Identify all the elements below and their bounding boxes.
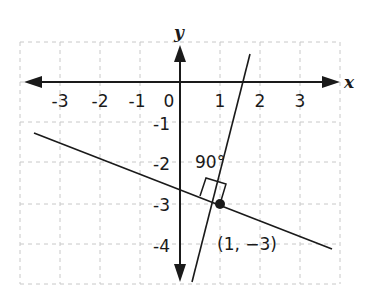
x-tick-label: -1 [129,91,146,111]
y-axis-label: y [173,22,185,42]
y-tick-label: -4 [153,236,170,256]
y-tick-label: -1 [153,114,170,134]
y-tick-label: -3 [153,195,170,215]
x-tick-label: 0 [164,91,175,111]
x-axis: x [24,72,355,92]
angle-label: 90° [195,152,225,172]
y-axis: y [173,22,186,282]
y-axis-up-arrow-icon [174,45,186,62]
x-axis-left-arrow-icon [24,76,42,88]
point-label: (1, −3) [217,234,277,254]
y-axis-down-arrow-icon [174,264,186,282]
shallow-line [34,133,332,249]
coordinate-plane-diagram: x y -3 -2 -1 0 1 2 3 -1 -2 -3 -4 90° (1,… [0,0,384,297]
x-axis-label: x [343,72,355,92]
x-axis-right-arrow-icon [322,76,340,88]
x-tick-labels: -3 -2 -1 0 1 2 3 [52,91,306,111]
y-tick-label: -2 [153,154,170,174]
x-tick-label: -2 [92,91,109,111]
x-tick-label: 1 [215,91,226,111]
x-tick-label: 3 [295,91,306,111]
graph-canvas: x y -3 -2 -1 0 1 2 3 -1 -2 -3 -4 90° (1,… [0,0,384,297]
x-tick-label: -3 [52,91,69,111]
intersection-point-icon [215,199,225,209]
x-tick-label: 2 [255,91,266,111]
